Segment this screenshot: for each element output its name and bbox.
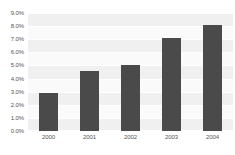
bar [162,38,181,131]
y-tick-label: 5.0% [11,62,24,68]
bar [39,93,58,131]
bar [80,71,99,131]
y-tick-label: 9.0% [11,10,24,16]
y-tick-label: 8.0% [11,23,24,29]
y-tick-label: 3.0% [11,89,24,95]
y-tick-label: 4.0% [11,76,24,82]
y-tick-label: 1.0% [11,115,24,121]
x-tick-label: 2002 [124,134,137,140]
bars-layer [28,13,233,131]
x-tick-label: 2004 [206,134,219,140]
y-tick-label: 0.0% [11,128,24,134]
y-tick-label: 6.0% [11,49,24,55]
y-tick-label: 7.0% [11,36,24,42]
bar [121,65,140,131]
y-axis: 0.0%1.0%2.0%3.0%4.0%5.0%6.0%7.0%8.0%9.0% [0,13,26,131]
bar-chart: 0.0%1.0%2.0%3.0%4.0%5.0%6.0%7.0%8.0%9.0%… [0,0,235,155]
x-tick-label: 2003 [165,134,178,140]
x-tick-label: 2000 [42,134,55,140]
bar [203,25,222,131]
x-tick-label: 2001 [83,134,96,140]
x-axis: 20002001200220032004 [28,134,233,148]
y-tick-label: 2.0% [11,102,24,108]
